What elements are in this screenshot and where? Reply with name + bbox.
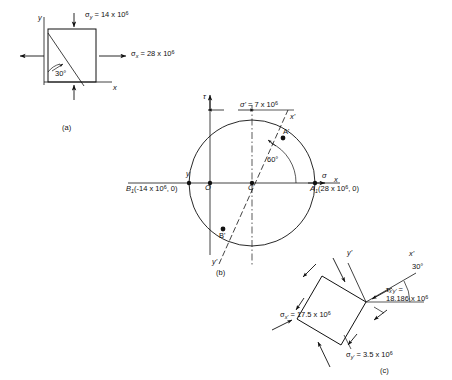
sigma-xprime-subscript: x' [285,314,289,320]
sigma-prime-label-b: σ' = 7 x 106 [240,101,278,109]
sigma-xprime-value: = 17.5 x 10 [290,310,327,319]
tau-value: 18.186 x 10 [386,294,425,303]
angle-label-c: 30° [412,263,423,271]
axis-yprime-label-b: y' [212,258,217,266]
point-Aprime-dot [281,136,286,141]
sigma-x-subscript: x [136,53,139,59]
sigma-yprime-arrow-bottom [318,342,330,367]
sigma-prime-value: = 7 x 10 [248,100,275,109]
axis-y-label-a: y [38,14,42,22]
axis-y-label-b: y [186,170,190,178]
sigma-x-value: 28 x 10 [147,49,172,58]
point-Bprime-label: B' [219,232,225,240]
tau-equals: = [399,285,403,294]
tau-label-c: τx'y' = 18.186 x 106 [386,286,428,303]
point-A1-label: A1(28 x 106, 0) [310,185,359,194]
point-A1-value: (28 x 10 [318,184,345,193]
center-label-b: C [248,184,253,192]
sigma-yprime-subscript: y' [351,354,355,360]
caption-c: (c) [380,366,389,375]
sigma-x-label-a: σx = 28 x 106 [131,50,175,59]
sigma-yprime-arrow-top [333,258,345,282]
panel-b-graphics [128,95,340,265]
sigma-yprime-exponent: 6 [390,350,393,356]
angle-label-a: 30° [55,70,66,78]
tau-exponent: 6 [425,294,428,300]
sigma-yprime-value: = 3.5 x 10 [356,350,389,359]
point-B1-dot [187,181,191,185]
caption-b: (b) [216,268,225,277]
sigma-prime-symbol: σ' [240,100,246,109]
axis-xprime-label-c: x' [409,250,414,258]
panel-a-graphics [20,13,126,100]
angle-label-b: 60° [267,156,278,164]
origin-label-b: O [205,184,211,192]
figure-vector-layer [0,0,452,380]
point-A1-suffix: , 0) [348,184,359,193]
sigma-xprime-exponent: 6 [328,310,331,316]
inclined-plane-line [48,33,84,86]
sigma-y-exponent: 6 [126,10,129,16]
tau-label-leader [374,307,384,313]
sigma-y-label-a: σy = 14 x 106 [85,11,129,20]
sigma-prime-exponent: 6 [275,100,278,106]
figure-root: y x σy = 14 x 106 σx = 28 x 106 30° (a) … [0,0,452,380]
axis-x-label-a: x [113,84,117,92]
axis-x-label-b: x [334,176,338,184]
sigma-x-exponent: 6 [172,49,175,55]
caption-a: (a) [62,123,71,132]
sigma-y-value: 14 x 10 [101,10,126,19]
point-B1-suffix: , 0) [167,184,178,193]
sigma-y-subscript: y [90,14,93,20]
sigma-xprime-arrow-left [272,320,292,330]
axis-yprime-label-c: y' [347,249,352,257]
axis-sigma-label-b: σ [322,172,327,180]
axis-tau-label-b: τ [203,93,206,101]
tau-arrow-bottom [348,334,357,345]
point-B1-value: (-14 x 10 [134,184,164,193]
point-B1-label: B1(-14 x 106, 0) [126,185,177,194]
tau-arrow-top-left [303,264,316,277]
point-Aprime-label: A' [283,128,289,136]
tau-arrow-right [374,310,387,320]
axis-xprime-label-b: x' [290,113,295,121]
sigma-xprime-label-c: σx' = 17.5 x 106 [280,311,331,320]
sigma-yprime-label-c: σy' = 3.5 x 106 [346,351,393,360]
